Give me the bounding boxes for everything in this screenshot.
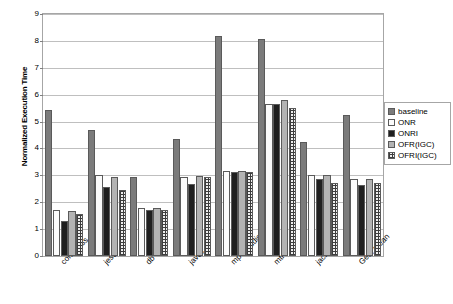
bar-group	[298, 14, 341, 256]
bar-ofr-igc-mtrt	[281, 100, 288, 256]
bar-baseline-mpegaudio	[215, 36, 222, 256]
bar-ofr-igc-jess	[111, 177, 118, 256]
legend-item-label: ONR	[398, 118, 416, 127]
bar-group	[341, 14, 384, 256]
bar-ofri-igc-compress	[76, 214, 83, 256]
bar-baseline-db	[130, 177, 137, 256]
bar-baseline-jess	[88, 130, 95, 256]
bar-ofr-igc-db	[153, 208, 160, 256]
bar-onri-db	[146, 210, 153, 256]
bar-ofr-igc-compress	[68, 211, 75, 256]
bar-onr-javac	[180, 177, 187, 256]
y-axis-tick-label: 7	[35, 64, 39, 72]
bar-onr-compress	[53, 210, 60, 256]
legend-item-label: OFR(IGC)	[398, 140, 434, 149]
y-axis-tick-label: 8	[35, 37, 39, 45]
bar-ofri-igc-mpegaudio	[246, 172, 253, 256]
bar-group	[43, 14, 86, 256]
bar-baseline-javac	[173, 139, 180, 256]
y-axis-tick-label: 2	[35, 198, 39, 206]
y-axis-tick-label: 5	[35, 118, 39, 126]
bar-onr-jack	[308, 175, 315, 256]
bar-ofr-igc-geo-mean	[366, 179, 373, 256]
bar-ofri-igc-mtrt	[289, 108, 296, 256]
y-axis-tick-label: 9	[35, 10, 39, 18]
bar-ofri-igc-javac	[204, 177, 211, 256]
bar-onri-mtrt	[273, 104, 280, 256]
bar-ofri-igc-db	[161, 210, 168, 256]
y-axis-tick-label: 3	[35, 171, 39, 179]
legend-item-label: ONRI	[398, 129, 418, 138]
bar-onri-javac	[188, 184, 195, 256]
plot-area: 0123456789	[42, 13, 384, 257]
bar-onri-jack	[316, 179, 323, 256]
legend-item[interactable]: baseline	[388, 106, 448, 117]
bar-onr-db	[138, 208, 145, 256]
bar-onr-jess	[95, 175, 102, 256]
bar-onri-geo-mean	[358, 185, 365, 256]
bar-onri-compress	[61, 221, 68, 256]
bar-onr-mpegaudio	[223, 171, 230, 256]
bar-onri-mpegaudio	[231, 172, 238, 256]
bar-ofri-igc-jess	[119, 190, 126, 256]
y-axis-tick-label: 1	[35, 225, 39, 233]
legend-item[interactable]: OFR(IGC)	[388, 139, 448, 150]
bar-chart: Normalized Execution Time 0123456789 com…	[0, 0, 453, 304]
chart-legend: baselineONRONRIOFR(IGC)OFRI(IGC)	[384, 102, 451, 165]
bar-onr-mtrt	[265, 104, 272, 256]
y-axis-tick-label: 0	[35, 252, 39, 260]
bar-onri-jess	[103, 187, 110, 256]
legend-item[interactable]: ONR	[388, 117, 448, 128]
bar-group	[256, 14, 299, 256]
legend-swatch-icon	[388, 141, 395, 148]
bar-ofri-igc-geo-mean	[374, 183, 381, 256]
y-axis-label: Normalized Execution Time	[20, 37, 29, 197]
legend-item[interactable]: OFRI(IGC)	[388, 150, 448, 161]
bar-baseline-jack	[300, 142, 307, 256]
y-axis-tick-label: 4	[35, 144, 39, 152]
legend-swatch-icon	[388, 108, 395, 115]
bar-group	[128, 14, 171, 256]
y-axis-tick-label: 6	[35, 91, 39, 99]
legend-swatch-icon	[388, 119, 395, 126]
bar-group	[171, 14, 214, 256]
y-axis-tickmark	[40, 256, 43, 257]
bar-baseline-geo-mean	[343, 115, 350, 256]
bar-ofri-igc-jack	[331, 183, 338, 256]
legend-item[interactable]: ONRI	[388, 128, 448, 139]
legend-item-label: baseline	[398, 107, 428, 116]
legend-swatch-icon	[388, 152, 395, 159]
bar-baseline-mtrt	[258, 39, 265, 256]
bar-ofr-igc-jack	[323, 175, 330, 256]
bar-ofr-igc-javac	[196, 176, 203, 256]
bar-baseline-compress	[45, 110, 52, 256]
bar-group	[213, 14, 256, 256]
legend-swatch-icon	[388, 130, 395, 137]
legend-item-label: OFRI(IGC)	[398, 151, 437, 160]
bar-onr-geo-mean	[350, 179, 357, 256]
bar-ofr-igc-mpegaudio	[238, 171, 245, 256]
bar-group	[86, 14, 129, 256]
